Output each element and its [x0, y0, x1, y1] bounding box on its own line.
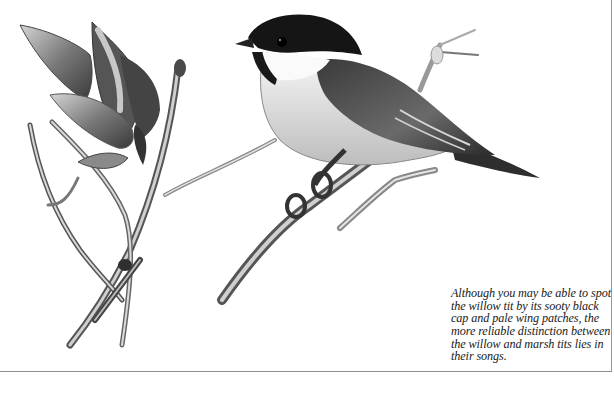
illustration-caption: Although you may be able to spot the wil… [451, 287, 611, 363]
leaves [20, 22, 160, 168]
book-page: Although you may be able to spot the wil… [0, 0, 612, 372]
